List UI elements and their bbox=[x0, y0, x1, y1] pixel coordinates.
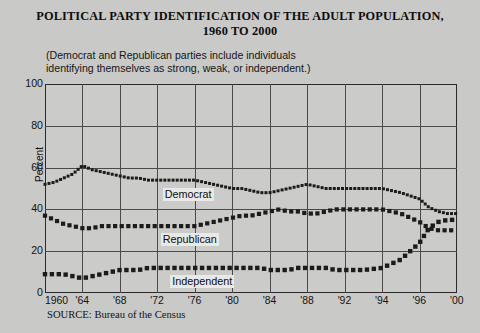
chart-subtitle: (Democrat and Republican parties include… bbox=[46, 49, 310, 74]
y-tick-label: 40 bbox=[9, 202, 43, 214]
chart-page: POLITICAL PARTY IDENTIFICATION OF THE AD… bbox=[0, 0, 480, 333]
x-tick-label: '96 bbox=[413, 295, 427, 306]
x-tick-label: '72 bbox=[150, 295, 164, 306]
x-tick-label: '68 bbox=[113, 295, 127, 306]
y-tick-label: 0 bbox=[9, 286, 43, 298]
x-tick-label: 1960 bbox=[45, 295, 68, 306]
plot-area: 020406080100 1960'64'68'72'76'80'84'88'9… bbox=[45, 84, 457, 293]
y-tick-label: 20 bbox=[9, 244, 43, 256]
y-tick-label: 100 bbox=[9, 77, 43, 89]
data-series-layer bbox=[45, 84, 457, 293]
x-tick-label: '92 bbox=[338, 295, 352, 306]
chart-title-line2: 1960 TO 2000 bbox=[0, 24, 480, 39]
x-tick-label: '64 bbox=[75, 295, 89, 306]
x-tick-label: '00 bbox=[450, 295, 464, 306]
x-tick-label: '84 bbox=[263, 295, 277, 306]
series-label-democrat: Democrat bbox=[163, 188, 214, 201]
chart-title-line1: POLITICAL PARTY IDENTIFICATION OF THE AD… bbox=[36, 9, 443, 23]
chart-title: POLITICAL PARTY IDENTIFICATION OF THE AD… bbox=[0, 9, 480, 38]
series-independent bbox=[43, 218, 454, 280]
series-label-republican: Republican bbox=[161, 233, 219, 246]
x-tick-label: '76 bbox=[188, 295, 202, 306]
y-axis-label: Percent bbox=[34, 134, 45, 194]
series-republican bbox=[43, 207, 453, 232]
x-tick-label: '88 bbox=[300, 295, 314, 306]
series-democrat bbox=[44, 165, 458, 215]
series-label-independent: Independent bbox=[170, 275, 234, 288]
x-tick-label: '80 bbox=[225, 295, 239, 306]
x-tick-label: '94 bbox=[375, 295, 389, 306]
source-note: SOURCE: Bureau of the Census bbox=[47, 309, 185, 320]
y-tick-label: 80 bbox=[9, 119, 43, 131]
